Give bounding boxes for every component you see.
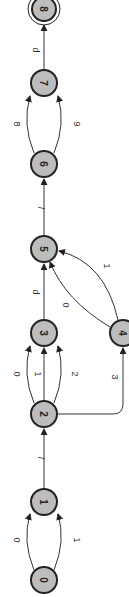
edge-label: d: [31, 47, 41, 52]
edge-label: 2: [70, 371, 80, 376]
edge-label: 9: [72, 121, 82, 126]
state-label: 6: [38, 161, 49, 167]
state-label: 0: [38, 577, 49, 583]
edge-4-5-label-0: [50, 262, 110, 327]
edge-label: 0: [12, 371, 22, 376]
state-4: 4: [110, 320, 129, 346]
state-1: 1: [31, 489, 57, 515]
state-6: 6: [31, 151, 57, 177]
edge-label: 0: [61, 302, 71, 307]
state-5: 5: [31, 236, 57, 262]
edge-2-3-label-0: [27, 346, 34, 403]
edge-2-4: [58, 348, 123, 414]
state-8-accepting: 8: [28, 0, 60, 25]
state-3: 3: [31, 320, 57, 346]
edge-label: d: [31, 289, 41, 294]
state-label: 5: [38, 246, 49, 252]
edge-label: 1: [33, 371, 43, 376]
edge-label: 1: [102, 263, 112, 268]
state-label: 8: [38, 6, 49, 12]
state-2: 2: [31, 401, 57, 427]
edge-4-5-label-1: [59, 251, 118, 320]
state-label: 4: [117, 330, 128, 336]
edge-6-7-label-9: [54, 96, 61, 153]
edge-0-1-label-1: [54, 514, 61, 570]
edge-label: 3: [110, 374, 120, 379]
state-7: 7: [31, 70, 57, 96]
edges: [27, 25, 123, 570]
edge-label: 0: [12, 537, 22, 542]
state-label: 2: [38, 411, 49, 417]
automaton-diagram: 0 1 / 0 1 2 3 d 0 1 / 8 9 d 0 1 2 3 4 5: [0, 0, 129, 597]
state-label: 1: [38, 499, 49, 505]
edge-labels: 0 1 / 0 1 2 3 d 0 1 / 8 9 d: [12, 47, 120, 542]
state-label: 3: [38, 330, 49, 336]
edge-0-1-label-0: [27, 514, 34, 570]
edge-label: 1: [72, 537, 82, 542]
edge-2-3-label-2: [54, 346, 61, 403]
state-label: 7: [38, 80, 49, 86]
state-0: 0: [31, 567, 57, 593]
edge-6-7-label-8: [27, 96, 34, 153]
edge-label: 8: [12, 121, 22, 126]
